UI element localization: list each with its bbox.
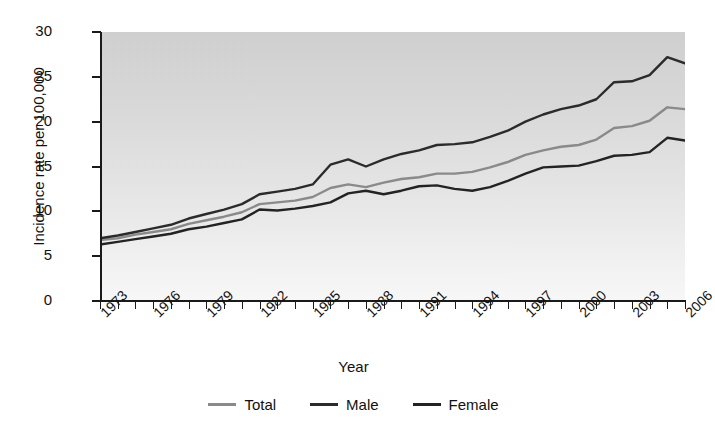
x-tick — [437, 302, 438, 309]
x-tick — [135, 302, 136, 309]
x-tick — [596, 302, 597, 309]
x-tick — [490, 302, 491, 309]
y-tick-label: 15 — [14, 157, 52, 174]
y-tick-label: 0 — [14, 291, 52, 308]
x-tick — [295, 302, 296, 309]
y-tick — [92, 121, 101, 123]
y-tick-label: 25 — [14, 67, 52, 84]
x-tick — [171, 302, 172, 309]
x-tick — [224, 302, 225, 309]
legend-item-label: Male — [346, 396, 379, 413]
legend-item-female[interactable]: Female — [413, 396, 499, 413]
x-tick — [455, 302, 456, 309]
y-tick-label: 20 — [14, 112, 52, 129]
legend-swatch-icon — [310, 403, 338, 406]
y-tick-label: 30 — [14, 22, 52, 39]
chart-legend: TotalMaleFemale — [0, 396, 707, 413]
series-line-female — [100, 138, 685, 245]
series-lines — [100, 32, 685, 301]
x-tick-label: 2006 — [682, 287, 715, 320]
x-tick — [614, 302, 615, 309]
legend-item-label: Total — [244, 396, 276, 413]
x-tick — [384, 302, 385, 309]
y-tick-label: 10 — [14, 201, 52, 218]
y-tick-label: 5 — [14, 246, 52, 263]
x-axis-title: Year — [0, 358, 707, 375]
legend-item-male[interactable]: Male — [310, 396, 379, 413]
x-tick — [508, 302, 509, 309]
x-tick — [543, 302, 544, 309]
y-tick — [92, 31, 101, 33]
x-tick — [348, 302, 349, 309]
x-tick — [242, 302, 243, 309]
x-tick — [277, 302, 278, 309]
x-tick — [561, 302, 562, 309]
series-line-total — [100, 107, 685, 240]
legend-item-label: Female — [449, 396, 499, 413]
legend-swatch-icon — [413, 403, 441, 406]
x-tick — [401, 302, 402, 309]
series-line-male — [100, 57, 685, 238]
x-tick — [330, 302, 331, 309]
x-tick — [667, 302, 668, 309]
x-tick — [650, 302, 651, 309]
y-tick — [92, 255, 101, 257]
legend-swatch-icon — [208, 403, 236, 406]
x-tick — [189, 302, 190, 309]
y-tick — [92, 166, 101, 168]
y-tick — [92, 210, 101, 212]
x-tick — [118, 302, 119, 309]
legend-item-total[interactable]: Total — [208, 396, 276, 413]
y-tick — [92, 76, 101, 78]
